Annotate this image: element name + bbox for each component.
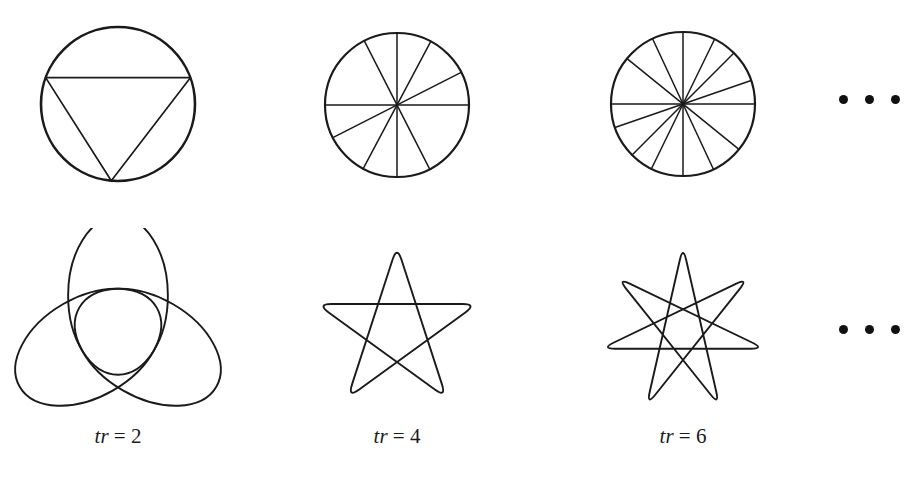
caption-value-2: 4 <box>410 424 421 448</box>
caption-row: tr=2 tr=4 tr=6 <box>0 424 924 470</box>
ellipsis-bottom-row <box>839 325 900 334</box>
ellipsis-dot <box>891 95 900 104</box>
ellipsis-top-row <box>839 95 900 104</box>
caption-column-2: tr=4 <box>267 424 527 449</box>
ellipsis-dot <box>839 325 848 334</box>
rose-curve-7-point-star <box>553 228 813 423</box>
ellipsis-dot <box>865 325 874 334</box>
caption-value-1: 2 <box>131 424 142 448</box>
figure-cell-top-3 <box>553 12 813 202</box>
caption-equals-1: = <box>109 424 131 448</box>
figure-cell-bottom-3 <box>553 228 813 418</box>
ellipsis-dot <box>839 95 848 104</box>
caption-column-3: tr=6 <box>553 424 813 449</box>
circle-with-3-chords <box>0 12 248 212</box>
caption-column-1: tr=2 <box>0 424 248 449</box>
figure-cell-bottom-2 <box>267 228 527 418</box>
ellipsis-dot <box>865 95 874 104</box>
caption-value-3: 6 <box>696 424 707 448</box>
circle-with-7-diameters <box>553 12 813 212</box>
circle-with-5-diameters <box>267 12 527 212</box>
figure-cell-top-2 <box>267 12 527 202</box>
caption-equals-2: = <box>388 424 410 448</box>
caption-equals-3: = <box>674 424 696 448</box>
rose-curve-3-petal <box>0 228 248 423</box>
figure-root: tr=2 tr=4 tr=6 <box>0 0 924 477</box>
figure-cell-bottom-1 <box>0 228 248 418</box>
caption-variable-2: tr <box>373 424 387 448</box>
caption-variable-3: tr <box>659 424 673 448</box>
caption-variable-1: tr <box>94 424 108 448</box>
rose-curve-5-point-star <box>267 228 527 423</box>
figure-cell-top-1 <box>0 12 248 202</box>
ellipsis-dot <box>891 325 900 334</box>
